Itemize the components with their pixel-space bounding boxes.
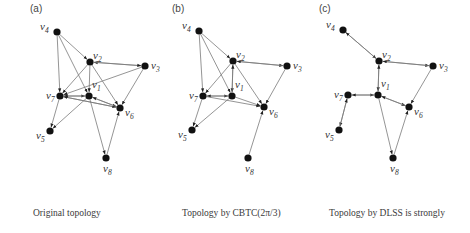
node-v8 xyxy=(244,154,251,161)
node-label-v7: v7 xyxy=(46,89,55,104)
edge-v8-to-v6 xyxy=(249,111,263,155)
edge-v8-to-v6 xyxy=(394,111,408,155)
node-label-v6: v6 xyxy=(125,106,134,121)
edge-v4-to-v1 xyxy=(201,34,231,92)
caption-a: Original topology (without topology cont… xyxy=(33,185,134,233)
node-v5 xyxy=(188,126,195,133)
edge-v6-to-v1 xyxy=(382,96,406,105)
node-label-v1: v1 xyxy=(92,78,101,93)
edge-v3-to-v6 xyxy=(411,69,431,103)
node-label-v6: v6 xyxy=(269,105,278,120)
node-label-v2: v2 xyxy=(93,49,102,64)
node-v6 xyxy=(116,104,123,111)
edge-v2-to-v1 xyxy=(89,66,90,92)
edge-v4-to-v7 xyxy=(199,35,203,92)
node-label-v6: v6 xyxy=(414,105,423,120)
node-v7 xyxy=(344,91,351,98)
node-label-v5: v5 xyxy=(178,128,187,143)
node-label-v7: v7 xyxy=(189,89,198,104)
node-label-v8: v8 xyxy=(390,162,399,177)
edge-v1-to-v5 xyxy=(195,98,229,127)
node-v3 xyxy=(141,62,148,69)
node-v6 xyxy=(405,103,412,110)
node-label-v3: v3 xyxy=(439,59,448,74)
node-v3 xyxy=(283,62,290,69)
node-v1 xyxy=(374,91,381,98)
node-v4 xyxy=(195,27,202,34)
caption-b: Topology by CBTC(2π/3) without optimizat… xyxy=(182,185,294,233)
node-label-v1: v1 xyxy=(235,78,244,93)
panel-label-c: (c) xyxy=(319,3,331,14)
node-label-v8: v8 xyxy=(245,162,254,177)
edge-v1-to-v2 xyxy=(378,65,379,91)
node-v7 xyxy=(199,92,206,99)
node-v3 xyxy=(429,62,436,69)
edge-v4-to-v2 xyxy=(60,34,87,59)
caption-c: Topology by DLSS is strongly connected. xyxy=(329,185,445,233)
node-label-v3: v3 xyxy=(293,59,302,74)
node-label-v4: v4 xyxy=(40,20,49,35)
node-v5 xyxy=(335,126,342,133)
node-label-v5: v5 xyxy=(325,128,334,143)
panel-a-original-topology: (a)v1v2v3v4v5v6v7v8 xyxy=(30,3,160,177)
node-v4 xyxy=(53,28,60,35)
node-label-v4: v4 xyxy=(326,18,335,33)
edge-v1-to-v8 xyxy=(90,99,105,154)
node-v8 xyxy=(102,154,109,161)
node-v5 xyxy=(46,127,53,134)
edge-v4-to-v7 xyxy=(57,36,60,92)
node-v6 xyxy=(260,103,267,110)
node-label-v2: v2 xyxy=(236,48,245,63)
node-label-v2: v2 xyxy=(382,48,391,63)
edge-v3-to-v6 xyxy=(122,69,143,104)
node-label-v4: v4 xyxy=(182,19,191,34)
node-v1 xyxy=(228,92,235,99)
edge-v3-to-v6 xyxy=(266,69,285,103)
edge-v4-to-v2 xyxy=(202,33,230,58)
node-v8 xyxy=(389,154,396,161)
edge-v2-to-v4 xyxy=(346,33,376,59)
caption-b-line-1: Topology by CBTC(2π/3) xyxy=(182,208,294,220)
edge-v1-to-v8 xyxy=(379,99,392,155)
node-label-v7: v7 xyxy=(334,88,343,103)
panel-c-dlss-topology: (c)v1v2v3v4v5v6v7v8 xyxy=(319,3,448,177)
caption-c-line-1: Topology by DLSS is strongly xyxy=(329,208,445,220)
edge-v5-to-v7 xyxy=(340,99,347,127)
caption-a-line-1: Original topology xyxy=(33,208,134,220)
node-v7 xyxy=(56,92,63,99)
node-v1 xyxy=(85,92,92,99)
panel-label-b: (b) xyxy=(172,3,184,14)
panel-b-cbtc-topology: (b)v1v2v3v4v5v6v7v8 xyxy=(172,3,302,177)
edge-v4-to-v1 xyxy=(59,35,88,92)
panel-label-a: (a) xyxy=(30,3,42,14)
edge-v1-to-v2 xyxy=(232,65,233,92)
node-label-v5: v5 xyxy=(36,129,45,144)
node-label-v3: v3 xyxy=(151,59,160,74)
node-v4 xyxy=(339,26,346,33)
edge-v8-to-v6 xyxy=(107,112,119,155)
node-label-v1: v1 xyxy=(381,77,390,92)
node-label-v8: v8 xyxy=(103,162,112,177)
